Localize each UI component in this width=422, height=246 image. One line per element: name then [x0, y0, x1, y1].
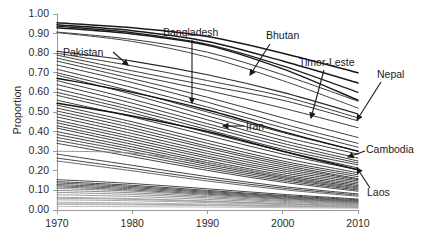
annotation-arrow	[348, 151, 365, 157]
y-axis-tick-label: 0.20	[15, 165, 49, 176]
annotation-arrow	[357, 82, 381, 120]
annotation-label: Nepal	[377, 69, 404, 80]
y-axis-tick-label: 0.40	[15, 126, 49, 137]
y-axis-tick-label: 0.90	[15, 28, 49, 39]
x-axis-tick-label: 2010	[338, 218, 378, 229]
y-axis-tick-label: 0.30	[15, 145, 49, 156]
y-axis-tick-label: 0.00	[15, 204, 49, 215]
series-line	[57, 58, 358, 128]
y-axis-tick-label: 0.60	[15, 86, 49, 97]
x-axis-tick-label: 1990	[188, 218, 228, 229]
annotation-label: Laos	[367, 187, 390, 198]
annotation-label: Bhutan	[266, 30, 299, 41]
x-axis-tick-label: 1980	[112, 218, 152, 229]
annotation-arrow	[357, 168, 370, 188]
annotation-label: Timor-Leste	[299, 57, 355, 68]
series-line	[57, 85, 358, 161]
annotation-label: Iran	[246, 121, 264, 132]
annotation-label: Pakistan	[63, 47, 103, 58]
y-axis-tick-label: 0.70	[15, 67, 49, 78]
y-axis-tick-label: 0.50	[15, 106, 49, 117]
annotation-arrow	[250, 44, 270, 75]
x-axis-tick-label: 2000	[263, 218, 303, 229]
annotation-label: Cambodia	[366, 144, 414, 155]
annotation-label: Bangladesh	[163, 27, 218, 38]
y-axis-tick-label: 1.00	[15, 8, 49, 19]
x-axis-tick-label: 1970	[37, 218, 77, 229]
y-axis-tick-label: 0.10	[15, 184, 49, 195]
y-axis-tick-label: 0.80	[15, 47, 49, 58]
chart-container: Proportion 0.000.100.200.300.400.500.600…	[0, 0, 422, 246]
